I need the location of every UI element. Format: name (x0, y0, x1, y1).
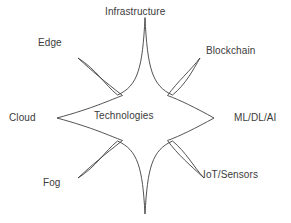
node-label-ml-dl-ai: ML/DL/AI (234, 112, 276, 124)
node-label-fog: Fog (43, 177, 61, 189)
node-label-iot-sensors: IoT/Sensors (203, 169, 258, 181)
center-label-technologies: Technologies (94, 110, 154, 122)
technologies-star-diagram: Technologies Infrastructure Blockchain M… (0, 0, 291, 223)
node-label-infrastructure: Infrastructure (105, 6, 165, 18)
node-label-blockchain: Blockchain (206, 45, 255, 57)
node-label-cloud: Cloud (9, 112, 36, 124)
node-label-edge: Edge (38, 37, 62, 49)
